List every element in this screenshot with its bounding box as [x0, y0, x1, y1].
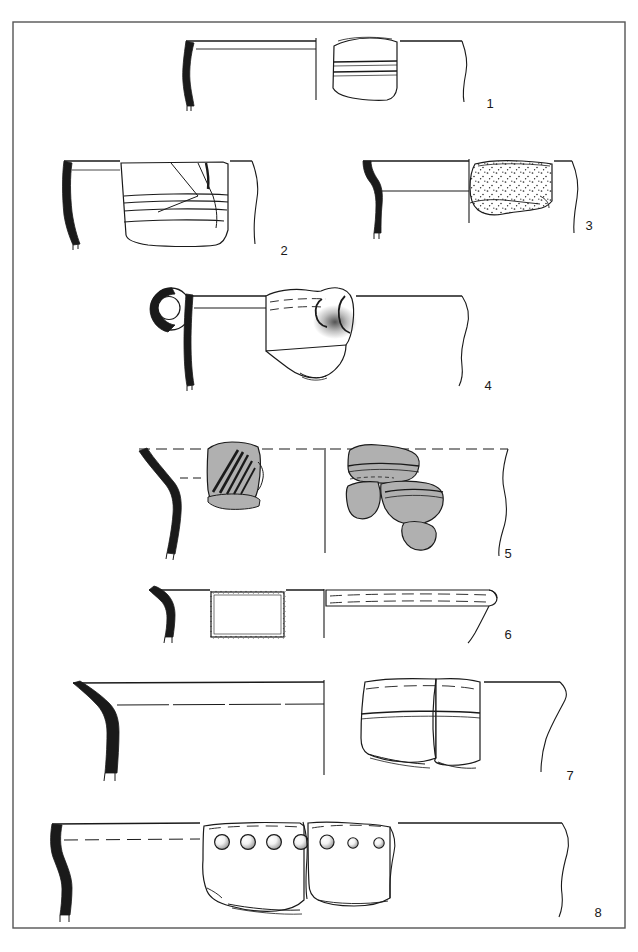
figure-label-6: 6 [504, 627, 511, 642]
figure-2-sherd [121, 162, 228, 247]
figure-5-sherd-left [207, 442, 263, 509]
figure-label-8: 8 [594, 905, 601, 920]
figure-6-sherd-left [211, 592, 284, 637]
figure-1-sherd [333, 37, 397, 100]
figure-label-1: 1 [486, 96, 493, 111]
figure-8-sherd-right [303, 822, 395, 906]
figure-8-sherd-left [203, 823, 309, 915]
figure-3-sherd [470, 161, 552, 215]
figure-label-3: 3 [585, 218, 592, 233]
figure-label-4: 4 [484, 378, 491, 393]
figure-8-rim-line [52, 823, 200, 824]
figure-label-5: 5 [504, 546, 511, 561]
pottery-plate-figure: 1 2 [0, 0, 638, 952]
figure-label-7: 7 [566, 768, 573, 783]
figure-7-sherd [361, 679, 480, 769]
figure-label-2: 2 [280, 243, 287, 258]
figure-7-rim-line [73, 682, 324, 683]
plate-background [0, 0, 638, 952]
